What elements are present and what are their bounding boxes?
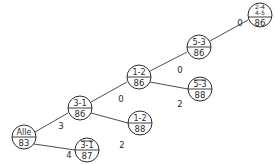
svg-text:1-2: 1-2 [132,68,145,77]
svg-text:88: 88 [135,124,146,134]
edge-label: 2 [119,140,124,150]
edge-label: 3 [58,121,63,131]
svg-text:88: 88 [195,90,206,100]
svg-text:83: 83 [19,138,30,148]
tree-diagram: 3 4 0 2 0 2 0 Alle 83 3-1 86 3-1 87 1-2 … [0,0,275,164]
svg-text:3-1: 3-1 [80,141,93,150]
edge-1-2-to-5-3-88 [150,82,188,89]
svg-text:3-1: 3-1 [73,99,86,108]
edge-label: 0 [118,94,123,104]
svg-text:86: 86 [194,48,205,58]
tree-node-3-1-86: 3-1 86 [68,96,92,120]
svg-text:87: 87 [82,151,93,161]
tree-node-3-1-87: 3-1 87 [75,138,99,162]
edge-3-1-to-1-2-88 [91,113,128,123]
svg-text:5-3: 5-3 [192,38,205,47]
edge-label: 0 [177,65,182,75]
tree-node-5-3-86: 5-3 86 [187,35,211,59]
tree-node-alle: Alle 83 [12,125,36,149]
tree-node-5-3-88: 5-3 88 [188,77,212,101]
tree-node-final: 2-4 4-5 86 [248,3,272,28]
svg-text:1-2: 1-2 [133,114,146,123]
tree-node-1-2-88: 1-2 88 [128,111,152,135]
edge-label: 4 [66,150,71,160]
edge-label: 2 [177,99,182,109]
svg-text:86: 86 [255,18,266,28]
svg-text:86: 86 [75,109,86,119]
tree-node-1-2-86: 1-2 86 [127,65,151,89]
svg-text:Alle: Alle [17,128,32,137]
svg-text:86: 86 [134,78,145,88]
svg-text:4-5: 4-5 [255,9,265,16]
edge-label: 0 [237,18,242,28]
svg-text:5-3: 5-3 [193,80,206,89]
